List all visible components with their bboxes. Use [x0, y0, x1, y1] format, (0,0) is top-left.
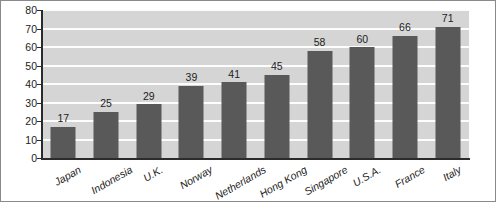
- y-axis-line: [41, 10, 43, 159]
- x-label-slot: Indonesia: [85, 160, 128, 202]
- bar[interactable]: [136, 104, 161, 158]
- x-axis-category-label: U.S.A.: [351, 164, 383, 188]
- y-axis-tick-label: 80: [25, 5, 37, 16]
- bar-value-label: 17: [58, 113, 70, 124]
- x-label-slot: Singapore: [298, 160, 341, 202]
- bar[interactable]: [222, 82, 247, 158]
- bar-value-label: 71: [442, 13, 454, 24]
- x-label-slot: Japan: [42, 160, 85, 202]
- bar-value-label: 29: [143, 91, 155, 102]
- bar[interactable]: [307, 51, 332, 158]
- bars-layer: 17252939414558606671: [42, 10, 469, 158]
- y-axis-tick-label: 60: [25, 42, 37, 53]
- bar[interactable]: [264, 75, 289, 158]
- bar-slot: 25: [85, 10, 128, 158]
- bar-value-label: 60: [356, 34, 368, 45]
- bar-value-label: 66: [399, 22, 411, 33]
- y-axis-tick-label: 70: [25, 24, 37, 35]
- bar[interactable]: [179, 86, 204, 158]
- x-axis-category-labels: JapanIndonesiaU.K.NorwayNetherlandsHong …: [42, 160, 469, 202]
- bar[interactable]: [392, 36, 417, 158]
- bar-slot: 39: [170, 10, 213, 158]
- plot-area: 17252939414558606671: [42, 10, 469, 158]
- bar-slot: 66: [384, 10, 427, 158]
- bar-slot: 58: [298, 10, 341, 158]
- y-axis-tick-label: 40: [25, 79, 37, 90]
- bar-value-label: 39: [186, 72, 198, 83]
- y-axis-tick-label: 20: [25, 116, 37, 127]
- x-axis-category-label: Italy: [441, 164, 463, 183]
- bar-slot: 29: [127, 10, 170, 158]
- x-axis-category-label: Norway: [178, 164, 214, 191]
- bar-chart: 80706050403020100 17252939414558606671 J…: [0, 0, 496, 202]
- x-label-slot: Hong Kong: [256, 160, 299, 202]
- bar-value-label: 25: [100, 98, 112, 109]
- bar-slot: 60: [341, 10, 384, 158]
- bar-value-label: 41: [228, 69, 240, 80]
- y-axis-tick-labels: 80706050403020100: [1, 1, 37, 202]
- bar-value-label: 58: [314, 37, 326, 48]
- x-label-slot: Netherlands: [213, 160, 256, 202]
- x-label-slot: Norway: [170, 160, 213, 202]
- bar-slot: 41: [213, 10, 256, 158]
- bar-slot: 17: [42, 10, 85, 158]
- bar[interactable]: [94, 112, 119, 158]
- bar[interactable]: [350, 47, 375, 158]
- bar[interactable]: [51, 127, 76, 158]
- x-axis-category-label: France: [393, 164, 427, 189]
- x-label-slot: France: [384, 160, 427, 202]
- bar-slot: 45: [256, 10, 299, 158]
- x-label-slot: U.K.: [127, 160, 170, 202]
- y-axis-tick-label: 50: [25, 61, 37, 72]
- y-axis-tick-label: 10: [25, 135, 37, 146]
- bar-slot: 71: [426, 10, 469, 158]
- bar-value-label: 45: [271, 61, 283, 72]
- y-axis-tick-label: 30: [25, 98, 37, 109]
- x-axis-category-label: U.K.: [141, 164, 164, 183]
- x-label-slot: U.S.A.: [341, 160, 384, 202]
- bar[interactable]: [435, 27, 460, 158]
- x-label-slot: Italy: [426, 160, 469, 202]
- x-axis-category-label: Japan: [53, 164, 83, 187]
